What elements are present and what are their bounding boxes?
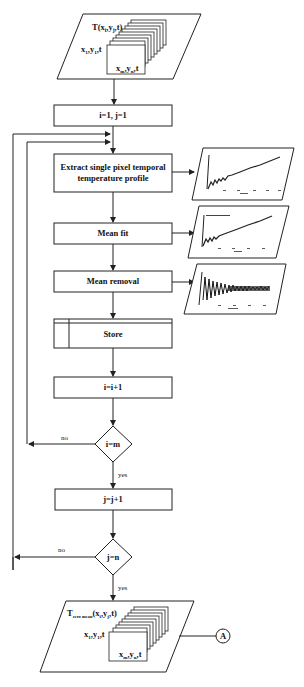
output-first-frame-label: x1,y1,t — [84, 629, 105, 640]
first-frame-label: x1,y1,t — [81, 44, 102, 55]
increment-i-box: i=i+1 — [54, 377, 172, 398]
decision-i-yes-label: yes — [118, 471, 128, 479]
mean-fit-box: Mean fit — [54, 223, 172, 244]
flowchart-canvas: T(xi,yj,t) x1,y1,t xm,yn,t i=1, j=1 Extr… — [0, 0, 304, 687]
connector-a: A — [216, 629, 230, 643]
init-box: i=1, j=1 — [54, 105, 172, 126]
decision-j-label: j=n — [106, 552, 120, 562]
mean-removed-thumbnail — [184, 264, 286, 314]
decision-i-label: i=m — [106, 439, 120, 449]
extract-line1: Extract single pixel temporal — [60, 162, 166, 172]
init-label: i=1, j=1 — [99, 110, 127, 120]
mean-removal-box: Mean removal — [54, 271, 172, 292]
store-box: Store — [54, 319, 172, 348]
last-frame-label: xm,yn,t — [116, 63, 139, 74]
increment-i-label: i=i+1 — [104, 382, 123, 392]
output-last-frame-label: xm,yn,t — [119, 649, 142, 660]
mean-fit-thumbnail — [188, 206, 289, 258]
raw-temporal-profile-thumbnail — [192, 148, 294, 200]
input-data-parallelogram: T(xi,yj,t) x1,y1,t xm,yn,t — [57, 14, 201, 79]
decision-j-no-label: no — [58, 546, 66, 554]
decision-j-yes-label: yes — [118, 584, 128, 592]
output-data-parallelogram: Tzero mean(xi,yj,t) x1,y1,t xm,yn,t — [40, 601, 194, 672]
decision-i-no-label: no — [61, 434, 69, 442]
input-label: T(xi,yj,t) — [92, 22, 122, 33]
increment-j-label: j=j+1 — [102, 494, 123, 504]
increment-j-box: j=j+1 — [55, 489, 172, 510]
decision-j-equals-n: j=n — [95, 539, 132, 575]
decision-i-equals-m: i=m — [95, 426, 132, 462]
store-label: Store — [103, 329, 122, 339]
mean-fit-label: Mean fit — [98, 228, 129, 238]
extract-line2: temperature profile — [77, 173, 148, 183]
connector-label: A — [220, 631, 227, 641]
extract-profile-box: Extract single pixel temporal temperatur… — [54, 154, 172, 192]
mean-removal-label: Mean removal — [87, 276, 140, 286]
